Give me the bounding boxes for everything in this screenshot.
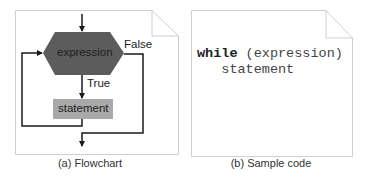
code-condition: (expression) [238, 46, 343, 61]
code-keyword: while [197, 46, 238, 61]
false-label: False [124, 38, 152, 50]
panel-b-page [192, 11, 353, 157]
decision-label: expression [57, 46, 113, 58]
code-body: statement [221, 62, 294, 77]
caption-b: (b) Sample code [231, 157, 312, 169]
process-label: statement [58, 102, 109, 114]
code-indent [197, 62, 221, 77]
figure-canvas [0, 0, 367, 182]
true-label: True [87, 77, 110, 89]
code-block: while (expression) statement [197, 46, 343, 78]
caption-a: (a) Flowchart [58, 157, 122, 169]
